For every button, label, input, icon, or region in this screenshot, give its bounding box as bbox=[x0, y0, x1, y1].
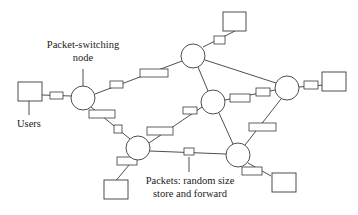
user-terminal bbox=[18, 82, 42, 101]
user-terminal bbox=[272, 173, 296, 192]
packet bbox=[249, 123, 276, 131]
packet bbox=[140, 69, 168, 77]
node-label-line2: node bbox=[73, 52, 94, 63]
users-label: Users bbox=[17, 118, 41, 129]
packet bbox=[183, 107, 197, 114]
user-terminal bbox=[104, 180, 128, 199]
node-label-line1: Packet-switching bbox=[47, 39, 120, 50]
switching-node bbox=[226, 143, 250, 167]
packet bbox=[114, 125, 122, 133]
packet bbox=[184, 148, 194, 155]
link-c-f bbox=[219, 113, 233, 144]
packets-label-line2: store and forward bbox=[153, 188, 228, 199]
packet-switching-diagram: Packet-switching node Users Packets: ran… bbox=[0, 0, 358, 215]
packets-label-line1: Packets: random size bbox=[146, 175, 235, 186]
packet bbox=[110, 81, 123, 88]
packet bbox=[242, 167, 262, 175]
switching-node bbox=[126, 136, 150, 160]
packet bbox=[256, 88, 270, 96]
link-b-c bbox=[198, 67, 208, 91]
switching-node bbox=[201, 90, 225, 114]
switching-node bbox=[275, 76, 299, 100]
packet bbox=[230, 94, 250, 102]
switching-node bbox=[181, 44, 205, 68]
packet bbox=[50, 92, 63, 99]
switching-node bbox=[71, 86, 95, 110]
packet bbox=[89, 110, 115, 118]
link-a-b bbox=[95, 61, 182, 94]
user-terminal bbox=[223, 12, 246, 31]
packet bbox=[304, 81, 318, 89]
link-d-f bbox=[245, 99, 281, 145]
packet bbox=[147, 127, 173, 135]
link-b-d bbox=[205, 60, 276, 83]
packet bbox=[214, 36, 225, 44]
user-terminal bbox=[322, 72, 346, 91]
